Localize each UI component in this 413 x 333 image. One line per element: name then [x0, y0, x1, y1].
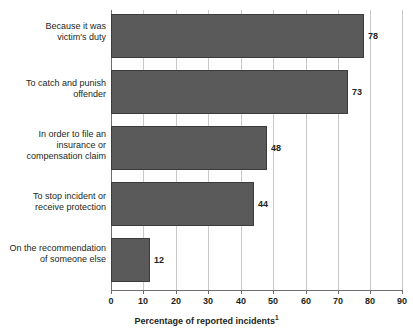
value-label-4: 12 [154, 255, 164, 265]
x-axis-line [111, 290, 403, 291]
category-label-4: On the recommendation of someone else [0, 243, 106, 265]
tick-mark-50 [273, 290, 274, 294]
category-axis-labels: Because it was victim's duty To catch an… [0, 10, 106, 290]
tick-mark-90 [402, 290, 403, 294]
tick-label-70: 70 [333, 296, 343, 306]
tick-mark-0 [111, 290, 112, 294]
category-label-3: To stop incident or receive protection [0, 191, 106, 213]
x-axis-title-text: Percentage of reported incidents [134, 316, 275, 326]
value-label-0: 78 [368, 31, 378, 41]
tick-mark-30 [208, 290, 209, 294]
tick-label-40: 40 [236, 296, 246, 306]
tick-mark-40 [241, 290, 242, 294]
tick-label-30: 30 [203, 296, 213, 306]
value-label-3: 44 [258, 199, 268, 209]
tick-mark-60 [306, 290, 307, 294]
bar-2 [111, 126, 267, 170]
category-label-1: To catch and punish offender [0, 78, 106, 100]
tick-mark-70 [338, 290, 339, 294]
tick-label-10: 10 [138, 296, 148, 306]
cropped-chart-title [111, 0, 403, 2]
tick-label-20: 20 [171, 296, 181, 306]
tick-mark-10 [143, 290, 144, 294]
value-label-2: 48 [271, 143, 281, 153]
bar-4 [111, 238, 150, 282]
gridline-90 [402, 10, 403, 290]
x-axis-title-footnote: 1 [275, 314, 279, 321]
plot-area: 78 73 48 44 12 [111, 10, 403, 290]
tick-label-90: 90 [397, 296, 407, 306]
x-axis-title: Percentage of reported incidents1 [0, 316, 413, 326]
category-label-0: Because it was victim's duty [0, 21, 106, 43]
bar-0 [111, 14, 364, 58]
tick-label-0: 0 [108, 296, 113, 306]
tick-label-50: 50 [268, 296, 278, 306]
gridline-80 [370, 10, 371, 290]
category-label-2: In order to file an insurance or compens… [0, 129, 106, 162]
value-label-1: 73 [352, 87, 362, 97]
tick-mark-80 [370, 290, 371, 294]
bar-3 [111, 182, 254, 226]
tick-mark-20 [176, 290, 177, 294]
bar-1 [111, 70, 348, 114]
tick-label-60: 60 [301, 296, 311, 306]
bar-chart-figure: Because it was victim's duty To catch an… [0, 0, 413, 333]
tick-label-80: 80 [365, 296, 375, 306]
